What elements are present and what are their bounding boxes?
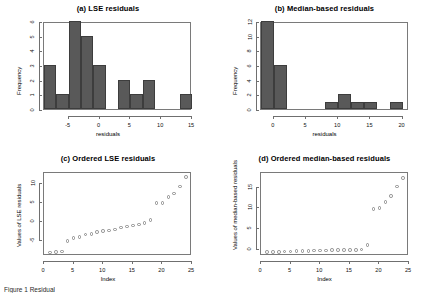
data-point xyxy=(66,239,70,243)
y-axis-tick-label: 2 xyxy=(29,79,35,82)
histogram-bar xyxy=(364,102,377,109)
histogram-bar xyxy=(130,94,142,109)
x-axis-tick xyxy=(402,116,403,119)
plot-area-b xyxy=(260,22,408,110)
histogram-bar xyxy=(56,94,68,109)
data-point xyxy=(172,192,176,196)
x-axis-tick-label: 10 xyxy=(157,122,163,128)
data-point xyxy=(395,185,399,189)
panel-title-b: (b) Median-based residuals xyxy=(216,4,433,13)
y-axis-tick xyxy=(256,110,259,111)
data-point xyxy=(143,221,147,225)
y-axis-tick xyxy=(39,240,42,241)
x-axis-tick-label: 20 xyxy=(375,267,381,273)
y-axis-tick-label: 5 xyxy=(29,35,35,38)
x-axis-tick-label: 5 xyxy=(71,267,74,273)
data-point xyxy=(78,235,82,239)
histogram-bar xyxy=(274,65,287,109)
data-point xyxy=(149,218,153,222)
data-point xyxy=(54,250,58,254)
y-axis-line xyxy=(256,187,257,249)
x-axis-tick-label: 0 xyxy=(97,122,100,128)
y-axis-tick-label: 4 xyxy=(246,79,252,82)
data-point xyxy=(324,249,328,253)
plot-area-d xyxy=(260,172,408,255)
chart-panel-b: (b) Median-based residuals05101520024681… xyxy=(216,0,433,150)
data-point xyxy=(372,207,376,211)
data-point xyxy=(336,248,340,252)
data-point xyxy=(119,226,123,230)
data-point xyxy=(167,195,171,199)
data-point xyxy=(137,223,141,227)
y-axis-tick-label: 1 xyxy=(29,94,35,97)
bars-a xyxy=(44,23,190,109)
x-axis-tick-label: 5 xyxy=(288,267,291,273)
histogram-bar xyxy=(351,102,364,109)
chart-panel-c: (c) Ordered LSE residuals0510152025-5051… xyxy=(0,150,216,297)
data-point xyxy=(318,249,322,253)
x-axis-tick-label: 0 xyxy=(258,267,261,273)
data-point xyxy=(378,206,382,210)
data-point xyxy=(72,236,76,240)
histogram-bar xyxy=(44,65,56,109)
y-axis-tick-label: 10 xyxy=(30,180,36,186)
y-axis-tick-label: 15 xyxy=(247,183,253,189)
x-axis-tick-label: 15 xyxy=(129,267,135,273)
y-axis-tick-label: 10 xyxy=(247,34,253,40)
x-axis-line xyxy=(260,261,408,262)
y-axis-tick-label: 8 xyxy=(246,50,252,53)
y-axis-tick-label: 6 xyxy=(29,20,35,23)
data-point xyxy=(401,176,405,180)
y-axis-tick-label: 2 xyxy=(246,94,252,97)
x-axis-title-a: residuals xyxy=(0,131,216,137)
y-axis-title-a: Frequency xyxy=(16,67,22,95)
figure-caption: Figure 1 Residual xyxy=(4,286,55,293)
y-axis-tick-label: 0 xyxy=(29,219,35,222)
histogram-bar xyxy=(69,21,81,109)
x-axis-tick-label: 20 xyxy=(158,267,164,273)
data-point xyxy=(277,250,281,254)
y-axis-title-d: Values of median-based residuals xyxy=(232,160,238,250)
data-point xyxy=(312,249,316,253)
x-axis-tick-label: 15 xyxy=(346,267,352,273)
data-point xyxy=(283,250,287,254)
plot-area-a xyxy=(43,22,191,110)
data-point xyxy=(101,229,105,233)
data-point xyxy=(301,249,305,253)
data-point xyxy=(131,224,135,228)
data-point xyxy=(366,243,370,247)
y-axis-tick-label: 0 xyxy=(29,108,35,111)
chart-panel-d: (d) Ordered median-based residuals051015… xyxy=(216,150,433,297)
x-axis-tick xyxy=(191,116,192,119)
y-axis-tick xyxy=(256,249,259,250)
x-axis-tick-label: 0 xyxy=(271,122,274,128)
histogram-bar xyxy=(180,94,192,109)
x-axis-tick xyxy=(408,261,409,264)
plot-area-c xyxy=(43,172,191,255)
panel-title-d: (d) Ordered median-based residuals xyxy=(216,154,433,163)
x-axis-tick xyxy=(191,261,192,264)
data-point xyxy=(389,194,393,198)
data-point xyxy=(90,232,94,236)
data-point xyxy=(384,200,388,204)
histogram-bar xyxy=(118,80,130,109)
x-axis-line xyxy=(43,261,191,262)
data-point xyxy=(289,250,293,254)
data-point xyxy=(265,250,269,254)
x-axis-tick-label: 15 xyxy=(366,122,372,128)
data-point xyxy=(354,248,358,252)
data-point xyxy=(307,249,311,253)
data-point xyxy=(178,185,182,189)
data-point xyxy=(342,248,346,252)
histogram-bar xyxy=(261,21,274,109)
chart-panel-a: (a) LSE residuals-50510150123456residual… xyxy=(0,0,216,150)
x-axis-tick-label: 25 xyxy=(405,267,411,273)
x-axis-title-d: Index xyxy=(216,276,433,282)
data-point xyxy=(95,230,99,234)
bars-b xyxy=(261,23,407,109)
data-point xyxy=(155,201,159,205)
y-axis-tick-label: 5 xyxy=(29,201,35,204)
x-axis-tick-label: 5 xyxy=(303,122,306,128)
panel-title-a: (a) LSE residuals xyxy=(0,4,216,13)
histogram-bar xyxy=(93,65,105,109)
